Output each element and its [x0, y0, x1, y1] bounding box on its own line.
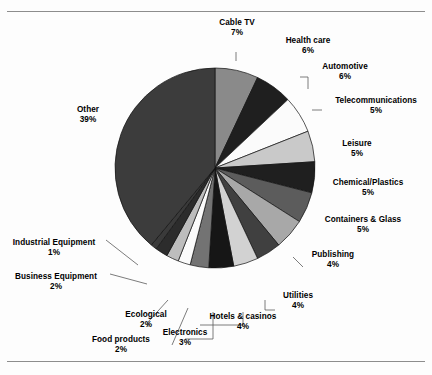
pie-label-pct-automotive: 6%	[312, 72, 378, 82]
pie-label-ecological: Ecological 2%	[110, 310, 182, 330]
figure-rule-bottom	[7, 361, 425, 362]
pie-label-pct-food-products: 2%	[78, 345, 164, 355]
pie-label-pct-chemical-plastics: 5%	[318, 188, 418, 198]
pie-label-pct-utilities: 4%	[272, 301, 324, 311]
pie-label-pct-other: 39%	[62, 115, 114, 125]
pie-label-chemical-plastics: Chemical/Plastics 5%	[318, 178, 418, 198]
pie-label-name-automotive: Automotive	[312, 62, 378, 72]
pie-label-cable-tv: Cable TV 7%	[206, 18, 268, 38]
pie-label-pct-leisure: 5%	[330, 149, 384, 159]
pie-label-name-containers-glass: Containers & Glass	[310, 215, 416, 225]
figure-caption-top-cropped	[8, 0, 418, 7]
pie-label-name-hotels-casinos: Hotels & casinos	[198, 312, 288, 322]
pie-label-publishing: Publishing 4%	[302, 250, 364, 270]
pie-label-pct-industrial-equipment: 1%	[1, 248, 107, 258]
pie-label-name-utilities: Utilities	[272, 291, 324, 301]
pie-label-name-health-care: Health care	[274, 36, 342, 46]
pie-label-pct-business-equipment: 2%	[4, 282, 108, 292]
figure-page: Cable TV 7% Health care 6% Automotive 6%…	[0, 0, 432, 375]
pie-label-pct-health-care: 6%	[274, 46, 342, 56]
pie-label-name-other: Other	[62, 105, 114, 115]
pie-chart-figure: Cable TV 7% Health care 6% Automotive 6%…	[0, 12, 432, 360]
pie-label-pct-publishing: 4%	[302, 260, 364, 270]
pie-label-automotive: Automotive 6%	[312, 62, 378, 82]
pie-label-name-food-products: Food products	[78, 335, 164, 345]
pie-label-pct-telecommunications: 5%	[324, 106, 428, 116]
pie-label-industrial-equipment: Industrial Equipment 1%	[1, 238, 107, 258]
pie-label-name-publishing: Publishing	[302, 250, 364, 260]
pie-label-name-telecommunications: Telecommunications	[324, 96, 428, 106]
pie-label-other: Other 39%	[62, 105, 114, 125]
pie-label-containers-glass: Containers & Glass 5%	[310, 215, 416, 235]
pie-label-name-chemical-plastics: Chemical/Plastics	[318, 178, 418, 188]
figure-caption-bottom-cropped	[8, 366, 308, 375]
leader-line-industrial-equipment	[106, 240, 138, 265]
pie-label-name-ecological: Ecological	[110, 310, 182, 320]
pie-label-pct-cable-tv: 7%	[206, 28, 268, 38]
pie-label-name-business-equipment: Business Equipment	[4, 272, 108, 282]
pie-label-pct-containers-glass: 5%	[310, 225, 416, 235]
pie-label-name-cable-tv: Cable TV	[206, 18, 268, 28]
pie-label-name-leisure: Leisure	[330, 139, 384, 149]
leader-line-automotive	[300, 77, 308, 89]
pie-label-food-products: Food products 2%	[78, 335, 164, 355]
pie-slice-group	[115, 68, 315, 268]
pie-label-business-equipment: Business Equipment 2%	[4, 272, 108, 292]
pie-label-pct-ecological: 2%	[110, 320, 182, 330]
pie-label-telecommunications: Telecommunications 5%	[324, 96, 428, 116]
leader-line-business-equipment	[110, 274, 147, 284]
pie-label-name-industrial-equipment: Industrial Equipment	[1, 238, 107, 248]
pie-label-health-care: Health care 6%	[274, 36, 342, 56]
pie-label-leisure: Leisure 5%	[330, 139, 384, 159]
pie-label-utilities: Utilities 4%	[272, 291, 324, 311]
